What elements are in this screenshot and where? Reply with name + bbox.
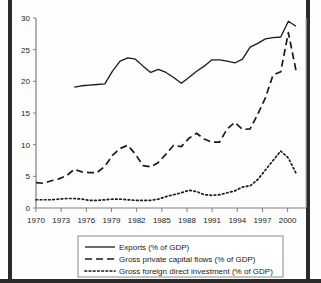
series-line-solid <box>74 21 296 87</box>
x-tick-label: 1985 <box>153 216 171 225</box>
x-axis-ticks: 1970197319761979198219851988199119941997… <box>27 208 297 225</box>
chart-legend: Exports (% of GDP)Gross private capital … <box>78 236 283 277</box>
y-axis-ticks: 051015202530 <box>21 14 36 213</box>
x-tick-label: 1973 <box>52 216 70 225</box>
x-tick-label: 2000 <box>279 216 297 225</box>
x-tick-label: 1976 <box>77 216 95 225</box>
y-tick-label: 30 <box>21 14 30 23</box>
x-tick-label: 1991 <box>203 216 221 225</box>
line-chart: 051015202530 197019731976197919821985198… <box>0 0 321 283</box>
x-tick-label: 1982 <box>128 216 146 225</box>
series-line-dotted <box>36 151 296 200</box>
legend-label: Gross foreign direct investment (% of GD… <box>119 267 273 276</box>
x-tick-label: 1988 <box>178 216 196 225</box>
y-tick-label: 25 <box>21 46 30 55</box>
series-line-dashed <box>36 33 296 184</box>
y-tick-label: 0 <box>26 204 31 213</box>
y-tick-label: 20 <box>21 77 30 86</box>
legend-label: Gross private capital flows (% of GDP) <box>119 255 256 264</box>
chart-axes <box>36 18 306 208</box>
y-tick-label: 15 <box>21 109 30 118</box>
y-tick-label: 10 <box>21 141 30 150</box>
legend-label: Exports (% of GDP) <box>119 243 190 252</box>
x-tick-label: 1994 <box>228 216 246 225</box>
x-tick-label: 1970 <box>27 216 45 225</box>
data-series-group <box>36 21 296 200</box>
x-tick-label: 1979 <box>103 216 121 225</box>
x-tick-label: 1997 <box>254 216 272 225</box>
y-tick-label: 5 <box>26 172 31 181</box>
chart-figure: 051015202530 197019731976197919821985198… <box>0 0 321 283</box>
